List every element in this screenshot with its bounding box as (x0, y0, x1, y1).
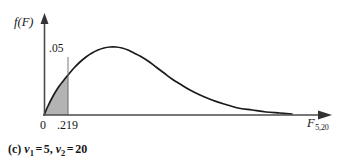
caption-nu2-value: 20 (75, 142, 87, 156)
caption-nu1-subscript: 1 (30, 148, 34, 158)
caption-equals-1: = (34, 142, 44, 156)
x-tick-label-critical-value: .219 (57, 119, 78, 131)
caption-nu1-symbol: ν (24, 142, 29, 156)
y-axis-arrowhead-icon (41, 13, 49, 24)
y-axis-label: f(F) (14, 16, 33, 29)
f-distribution-figure: f(F) .05 0 .219 F5,20 (c) ν1=5, ν2=20 (0, 0, 354, 165)
caption-part-label: (c) (8, 142, 21, 156)
area-probability-label: .05 (49, 43, 63, 55)
shaded-rejection-region (44, 75, 68, 115)
caption-comma: , (50, 142, 53, 156)
x-tick-label-zero: 0 (40, 119, 46, 131)
x-axis-label-base: F (307, 116, 315, 130)
caption-equals-2: = (65, 142, 75, 156)
figure-caption: (c) ν1=5, ν2=20 (8, 143, 87, 155)
x-axis-label: F5,20 (307, 117, 328, 130)
x-axis-label-subscript: 5,20 (315, 123, 329, 132)
density-curve (44, 47, 292, 115)
distribution-plot (0, 0, 354, 165)
caption-nu2-subscript: 2 (61, 148, 65, 158)
